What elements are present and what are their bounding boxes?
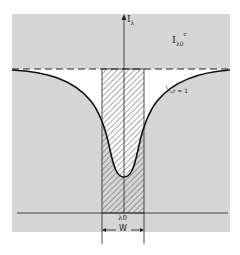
arrowhead-right-icon [140, 228, 144, 232]
equivalent-width-label: W [119, 225, 127, 233]
axis-arrow-icon [122, 14, 127, 20]
curve-label: r ≈ 1 [173, 88, 188, 94]
axis-label: Iλ [127, 15, 134, 26]
arrowhead-left-icon [102, 228, 106, 232]
center-wavelength-label: λ0 [118, 215, 127, 222]
continuum-label: Iλ0c [172, 34, 187, 47]
